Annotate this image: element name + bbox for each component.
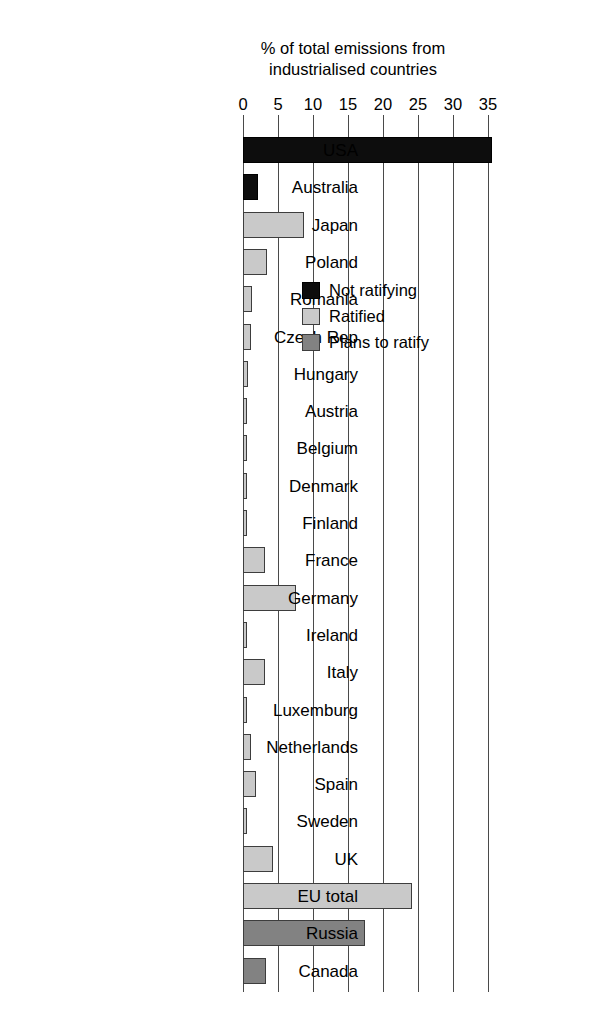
legend-entry: Plans to ratify [302, 330, 429, 354]
category-label: Spain [128, 766, 358, 803]
x-axis-tick-labels: 05101520253035 [0, 95, 610, 115]
x-axis-tickmark [418, 115, 419, 124]
x-axis-tickmark [383, 115, 384, 124]
category-label: EU total [128, 878, 358, 915]
category-label: USA [128, 132, 358, 169]
x-axis-tickmark [313, 115, 314, 124]
category-label: Ireland [128, 617, 358, 654]
category-label: Netherlands [128, 729, 358, 766]
legend-entry: Not ratifying [302, 278, 429, 302]
category-label: Sweden [128, 803, 358, 840]
category-label: Belgium [128, 430, 358, 467]
x-tick-label: 35 [479, 95, 497, 114]
x-tick-label: 10 [304, 95, 322, 114]
x-axis-tickmark [453, 115, 454, 124]
x-axis-tickmark [243, 115, 244, 124]
category-label: Luxemburg [128, 692, 358, 729]
x-tick-label: 15 [339, 95, 357, 114]
category-label: France [128, 542, 358, 579]
x-axis-tickmark [348, 115, 349, 124]
category-label: Russia [128, 915, 358, 952]
legend-swatch [302, 308, 320, 325]
chart-title: % of total emissions from industrialised… [213, 38, 493, 79]
category-label: Hungary [128, 356, 358, 393]
category-label: UK [128, 841, 358, 878]
legend-label: Plans to ratify [329, 333, 429, 352]
x-axis-tickmark [488, 115, 489, 124]
category-label: Finland [128, 505, 358, 542]
gridline [488, 124, 489, 992]
x-tick-label: 20 [374, 95, 392, 114]
chart-title-line-2: industrialised countries [213, 59, 493, 80]
chart-legend: Not ratifyingRatifiedPlans to ratify [302, 278, 429, 356]
x-tick-label: 5 [273, 95, 282, 114]
category-label: Austria [128, 393, 358, 430]
x-tick-label: 0 [238, 95, 247, 114]
category-label: Germany [128, 580, 358, 617]
legend-label: Not ratifying [329, 281, 417, 300]
legend-entry: Ratified [302, 304, 429, 328]
category-label: Poland [128, 244, 358, 281]
x-axis-tickmark [278, 115, 279, 124]
legend-swatch [302, 334, 320, 351]
category-label: Japan [128, 207, 358, 244]
x-tick-label: 30 [444, 95, 462, 114]
category-label: Canada [128, 953, 358, 990]
legend-swatch [302, 282, 320, 299]
x-tick-label: 25 [409, 95, 427, 114]
legend-label: Ratified [329, 307, 385, 326]
category-label: Australia [128, 169, 358, 206]
category-label: Italy [128, 654, 358, 691]
chart-title-line-1: % of total emissions from [213, 38, 493, 59]
category-label: Denmark [128, 468, 358, 505]
